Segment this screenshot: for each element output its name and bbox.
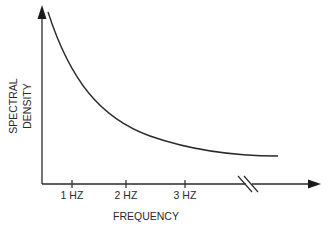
y-axis-arrowhead-icon bbox=[38, 5, 47, 19]
spectral-density-curve bbox=[48, 12, 278, 156]
x-tick-label-3hz: 3 HZ bbox=[174, 189, 197, 201]
chart-svg: 1 HZ 2 HZ 3 HZ FREQUENCY SPECTRAL DENSIT… bbox=[0, 0, 328, 228]
y-axis-label-line-2: DENSITY bbox=[21, 83, 33, 129]
y-axis-label-line-1: SPECTRAL bbox=[7, 78, 19, 134]
x-axis-label: FREQUENCY bbox=[113, 210, 179, 222]
spectral-density-chart: 1 HZ 2 HZ 3 HZ FREQUENCY SPECTRAL DENSIT… bbox=[0, 0, 328, 228]
x-tick-label-2hz: 2 HZ bbox=[115, 189, 138, 201]
x-tick-label-1hz: 1 HZ bbox=[61, 189, 84, 201]
x-axis-arrowhead-icon bbox=[308, 180, 321, 189]
